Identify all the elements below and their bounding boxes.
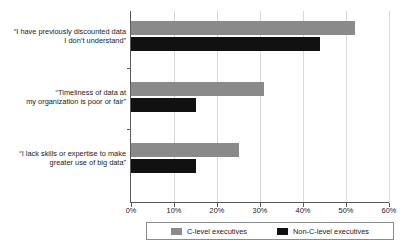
category-label: “Timeliness of data atmy organization is… xyxy=(0,88,126,106)
legend-item[interactable]: Non-C-level executives xyxy=(277,227,369,236)
bar-non-c-level xyxy=(131,37,320,51)
bar-non-c-level xyxy=(131,159,196,173)
legend-label: C-level executives xyxy=(187,227,247,236)
category-label: “I have previously discounted dataI don’… xyxy=(0,27,126,45)
category-label-line: “I have previously discounted data xyxy=(0,27,126,36)
gridline xyxy=(389,11,390,203)
x-axis-tick-label: 30% xyxy=(240,206,280,215)
x-axis-tick-label: 40% xyxy=(283,206,323,215)
bar-chart: “I have previously discounted dataI don’… xyxy=(0,0,409,246)
legend-swatch xyxy=(171,228,182,235)
category-label-line: “I lack skills or expertise to make xyxy=(0,149,126,158)
x-axis-tick-label: 20% xyxy=(197,206,237,215)
legend-item[interactable]: C-level executives xyxy=(171,227,247,236)
category-label-line: I don’t understand” xyxy=(0,36,126,45)
x-axis-tick-label: 0% xyxy=(111,206,151,215)
x-axis-tick-label: 10% xyxy=(154,206,194,215)
x-axis-tick-label: 50% xyxy=(326,206,366,215)
legend-label: Non-C-level executives xyxy=(293,227,369,236)
category-label: “I lack skills or expertise to makegreat… xyxy=(0,149,126,167)
x-axis-tick-label: 60% xyxy=(369,206,409,215)
bar-non-c-level xyxy=(131,98,196,112)
bar-c-level xyxy=(131,21,355,35)
bar-c-level xyxy=(131,143,239,157)
chart-legend: C-level executivesNon-C-level executives xyxy=(146,222,394,240)
legend-swatch xyxy=(277,228,288,235)
plot-area xyxy=(131,11,389,203)
category-label-line: greater use of big data” xyxy=(0,158,126,167)
category-label-line: “Timeliness of data at xyxy=(0,88,126,97)
bar-c-level xyxy=(131,82,264,96)
category-label-line: my organization is poor or fair” xyxy=(0,97,126,106)
